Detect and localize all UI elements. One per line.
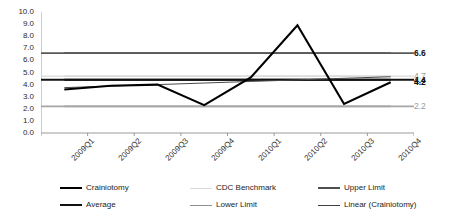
legend-label: Linear (Crainiotomy) [344, 201, 416, 209]
x-tick-label: 2010Q4 [397, 137, 423, 163]
legend-swatch-icon [60, 187, 82, 189]
y-axis: 10.09.08.07.06.05.04.03.02.01.00.0 [0, 0, 34, 140]
legend-item-crainiotomy[interactable]: Crainiotomy [60, 182, 129, 194]
x-axis: 2009Q12009Q22009Q32009Q42010Q12010Q22010… [0, 133, 449, 178]
legend-item-lower-limit[interactable]: Lower Limit [190, 199, 257, 211]
end-value-label: 6.6 [414, 49, 426, 58]
plot-area [41, 12, 414, 133]
legend-swatch-icon [318, 187, 340, 189]
x-tick-label: 2009Q3 [164, 137, 190, 163]
chart-canvas [41, 12, 414, 143]
x-tick-label: 2010Q2 [304, 137, 330, 163]
x-tick-label: 2009Q4 [211, 137, 237, 163]
end-value-label: 2.2 [414, 102, 426, 111]
legend-label: CDC Benchmark [216, 184, 276, 192]
y-tick-label: 2.0 [0, 105, 34, 113]
legend-label: Crainiotomy [86, 184, 129, 192]
legend-item-upper-limit[interactable]: Upper Limit [318, 182, 385, 194]
y-tick-label: 8.0 [0, 32, 34, 40]
craniotomy-line-chart: 10.09.08.07.06.05.04.03.02.01.00.0 6.64.… [0, 0, 449, 224]
y-tick-label: 5.0 [0, 69, 34, 77]
x-tick-label: 2010Q3 [350, 137, 376, 163]
y-tick-label: 3.0 [0, 93, 34, 101]
legend-swatch-icon [60, 204, 82, 206]
legend-label: Upper Limit [344, 184, 385, 192]
legend-label: Average [86, 201, 116, 209]
legend-swatch-icon [318, 205, 340, 206]
y-tick-label: 4.0 [0, 81, 34, 89]
x-tick-label: 2010Q1 [257, 137, 283, 163]
legend-item-cdc-benchmark[interactable]: CDC Benchmark [190, 182, 276, 194]
x-tick-label: 2009Q2 [117, 137, 143, 163]
chart-legend: CrainiotomyAverageCDC BenchmarkLower Lim… [60, 182, 440, 220]
y-tick-label: 6.0 [0, 56, 34, 64]
end-value-label: 4.2 [414, 78, 426, 87]
y-tick-label: 9.0 [0, 20, 34, 28]
series-line-crainiotomy [64, 25, 390, 105]
legend-item-average[interactable]: Average [60, 199, 116, 211]
legend-swatch-icon [190, 188, 212, 189]
legend-label: Lower Limit [216, 201, 257, 209]
legend-swatch-icon [190, 205, 212, 206]
y-tick-label: 10.0 [0, 8, 34, 16]
y-tick-label: 7.0 [0, 44, 34, 52]
y-tick-label: 1.0 [0, 117, 34, 125]
series-end-value-labels: 6.64.74.44.22.2 [414, 0, 449, 140]
legend-item-linear-crainiotomy[interactable]: Linear (Crainiotomy) [318, 199, 416, 211]
x-tick-label: 2009Q1 [71, 137, 97, 163]
